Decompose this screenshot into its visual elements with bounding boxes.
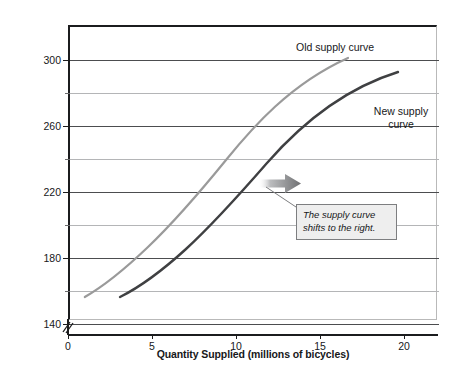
- x-label-0: 0: [65, 340, 71, 352]
- plot-area: 300 260 220 180 140: [68, 25, 437, 320]
- y-label-140: 140: [43, 318, 61, 330]
- gridline-140: [70, 324, 439, 325]
- x-label-10: 10: [230, 340, 242, 352]
- gridline-280: [70, 93, 439, 94]
- x-label-20: 20: [398, 340, 410, 352]
- x-tick-15: [320, 334, 321, 339]
- y-tick-200: [65, 225, 70, 226]
- y-tick-280: [65, 93, 70, 94]
- x-tick-20: [404, 334, 405, 339]
- x-tick-5: [152, 334, 153, 339]
- gridline-160: [70, 291, 439, 292]
- y-tick-220: [63, 192, 70, 193]
- x-axis-title: Quantity Supplied (millions of bicycles): [68, 348, 438, 360]
- y-tick-260: [63, 126, 70, 127]
- supply-curve-figure: Price (dollars per bicycle) Quantity Sup…: [0, 0, 460, 378]
- y-tick-300: [63, 60, 70, 61]
- new-supply-curve-label: New supply curve: [370, 105, 432, 131]
- axis-break-icon: [61, 320, 75, 335]
- gridline-220: [70, 192, 439, 193]
- new-curve-label-line2: curve: [388, 118, 414, 130]
- y-label-180: 180: [43, 252, 61, 264]
- y-tick-160: [65, 291, 70, 292]
- x-tick-0: [68, 334, 69, 339]
- y-label-220: 220: [43, 186, 61, 198]
- old-supply-curve-label: Old supply curve: [296, 41, 374, 54]
- y-label-260: 260: [43, 120, 61, 132]
- x-axis-line: [68, 334, 438, 336]
- gridline-240: [70, 159, 439, 160]
- new-curve-label-line1: New supply: [374, 105, 428, 117]
- gridline-180: [70, 258, 439, 259]
- x-label-5: 5: [149, 340, 155, 352]
- callout-line-1: The supply curve: [303, 209, 391, 222]
- shift-callout-box: The supply curve shifts to the right.: [296, 204, 397, 240]
- y-tick-240: [65, 159, 70, 160]
- callout-line-2: shifts to the right.: [303, 222, 391, 235]
- x-tick-10: [236, 334, 237, 339]
- gridline-300: [70, 60, 439, 61]
- y-label-300: 300: [43, 54, 61, 66]
- x-label-15: 15: [314, 340, 326, 352]
- y-tick-180: [63, 258, 70, 259]
